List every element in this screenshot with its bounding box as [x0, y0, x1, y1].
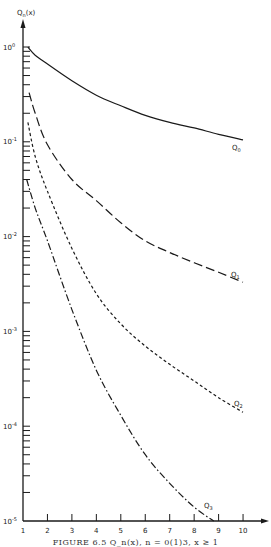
x-tick-label: 1: [21, 527, 25, 535]
x-axis-arrow-icon: [261, 519, 269, 524]
curve-q1: [29, 93, 243, 283]
label-q0: Q0: [232, 144, 241, 153]
curve-q2: [28, 122, 243, 412]
x-tick-label: 9: [216, 527, 220, 535]
x-tick-label: 7: [167, 527, 171, 535]
figure-caption: FIGURE 6.5 Q_n(x), n = 0(1)3, x ≥ 1: [0, 538, 271, 547]
chart: Qn(x) 10010-110-210-310-410-5 1234567891…: [0, 0, 271, 547]
label-q3: Q3: [204, 502, 213, 511]
x-ticks: 12345678910: [21, 514, 248, 535]
y-axis-title: Qn(x): [17, 9, 36, 18]
x-tick-label: 2: [45, 527, 49, 535]
y-axis-arrow-icon: [21, 19, 26, 28]
x-tick-label: 10: [239, 527, 248, 535]
y-tick-label: 10-2: [3, 231, 17, 241]
y-tick-label: 10-4: [3, 421, 17, 431]
y-tick-label: 10-3: [3, 326, 17, 336]
y-tick-label: 100: [3, 42, 15, 52]
x-tick-label: 3: [70, 527, 74, 535]
label-q2: Q2: [234, 400, 243, 409]
x-tick-label: 8: [192, 527, 196, 535]
x-tick-label: 4: [94, 527, 99, 535]
curve-q0: [28, 47, 243, 140]
curve-q3: [27, 180, 214, 522]
y-tick-labels: 10010-110-210-310-410-5: [3, 42, 17, 526]
y-ticks: [23, 47, 30, 521]
y-tick-label: 10-1: [3, 136, 17, 146]
x-tick-label: 6: [143, 527, 148, 535]
y-tick-label: 10-5: [3, 516, 17, 526]
label-q1: Q1: [231, 271, 240, 280]
x-tick-label: 5: [119, 527, 123, 535]
